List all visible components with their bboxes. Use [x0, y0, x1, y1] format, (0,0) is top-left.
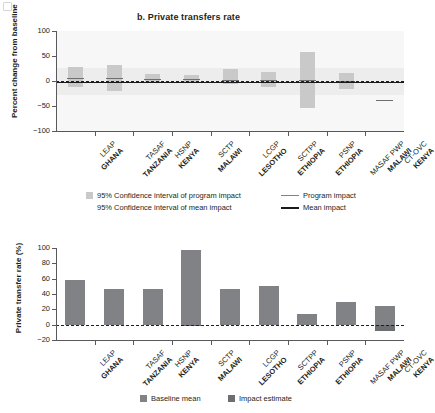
y-tick-top--50: [52, 106, 56, 107]
y-tick-bottom--20: [52, 340, 56, 341]
legend-item-ci-program: 95% Confidence interval of program impac…: [86, 191, 241, 200]
legend-item-ci-mean: 95% Confidence interval of mean impact: [86, 203, 232, 212]
confidence-interval-box-sctpp: [261, 72, 276, 87]
x-tick-bottom-4: [211, 341, 212, 345]
y-axis-line-top: [56, 31, 57, 131]
category-label-sctpp-ethiopia: SCTPPETHIOPIA: [288, 348, 326, 386]
y-tick-bottom-60: [52, 279, 56, 280]
chart-panel-private-transfers-rate: b. Private transfers rate Percent change…: [0, 0, 412, 228]
baseline-mean-bar-ct-ovc: [375, 306, 395, 324]
x-tick-top-5: [249, 132, 250, 136]
baseline-mean-bar-hsnp: [143, 289, 163, 324]
legend-swatch-ci-program-icon: [86, 192, 93, 199]
baseline-mean-bar-masaf-pwp: [336, 302, 356, 325]
category-label-leap-ghana: LEAPGHANA: [92, 348, 125, 381]
x-tick-bottom-3: [172, 341, 173, 345]
y-tick-label-bottom-100: 100: [20, 243, 50, 252]
category-label-sctp-malawi: SCTPMALAWI: [209, 348, 244, 383]
legend-swatch-baseline-mean-icon: [140, 395, 147, 402]
category-label-psnp-ethiopia: PSNPETHIOPIA: [327, 348, 365, 386]
y-tick-label-top--50: −50: [20, 101, 50, 110]
y-tick-label-bottom--20: −20: [20, 335, 50, 344]
y-tick-label-top-100: 100: [20, 26, 50, 35]
baseline-mean-bar-tasaf: [104, 289, 124, 325]
category-label-tasaf-tanzania: TASAFTANZANIA: [134, 348, 174, 388]
baseline-mean-bar-sctp: [181, 250, 201, 325]
zero-reference-line-top: [56, 81, 404, 82]
category-label-hsnp-kenya: HSNPKENYA: [169, 139, 201, 171]
y-tick-label-top-0: 0: [20, 76, 50, 85]
y-tick-bottom-0: [52, 325, 56, 326]
chart-title-top: b. Private transfers rate: [137, 12, 240, 22]
y-tick-label-top-50: 50: [20, 51, 50, 60]
legend-swatch-program-impact-icon: [281, 195, 299, 196]
category-label-leap-ghana: LEAPGHANA: [92, 139, 125, 172]
category-label-lcgp-lesotho: LCGPLESOTHO: [250, 348, 289, 387]
x-tick-top-3: [172, 132, 173, 136]
legend-swatch-ci-mean-icon: [86, 204, 93, 211]
y-tick-bottom-80: [52, 263, 56, 264]
program-impact-line-leap: [67, 78, 84, 79]
x-tick-bottom-8: [365, 341, 366, 345]
category-label-ct-ovc-kenya: CT-OVCKENYA: [402, 348, 435, 381]
legend-item-impact-estimate: Impact estimate: [228, 394, 292, 403]
x-tick-bottom-2: [133, 341, 134, 345]
category-label-sctpp-ethiopia: SCTPPETHIOPIA: [288, 139, 326, 177]
y-tick-top--100: [52, 131, 56, 132]
legend-label-ci-program: 95% Confidence interval of program impac…: [97, 191, 241, 200]
category-label-ct-ovc-kenya: CT-OVCKENYA: [402, 139, 435, 172]
y-tick-top-50: [52, 56, 56, 57]
program-impact-line-hsnp: [144, 79, 161, 80]
category-label-hsnp-kenya: HSNPKENYA: [169, 348, 201, 380]
y-tick-top-0: [52, 81, 56, 82]
x-axis-line-top: [56, 131, 404, 132]
y-axis-line-bottom: [56, 248, 57, 340]
category-label-psnp-ethiopia: PSNPETHIOPIA: [327, 139, 365, 177]
y-tick-bottom-20: [52, 309, 56, 310]
zero-reference-line-bottom: [56, 325, 404, 326]
legend-label-program-impact: Program impact: [303, 191, 356, 200]
y-tick-label-bottom-60: 60: [20, 274, 50, 283]
plot-area-bottom: [56, 248, 404, 340]
legend-label-baseline-mean: Baseline mean: [151, 394, 201, 403]
x-tick-bottom-5: [249, 341, 250, 345]
y-tick-bottom-40: [52, 294, 56, 295]
legend-item-mean-impact: Mean impact: [281, 203, 346, 212]
x-tick-top-6: [288, 132, 289, 136]
x-tick-top-4: [211, 132, 212, 136]
legend-swatch-mean-impact-icon: [281, 207, 299, 209]
legend-item-program-impact: Program impact: [281, 191, 356, 200]
y-tick-label-bottom-0: 0: [20, 320, 50, 329]
y-tick-label-bottom-80: 80: [20, 258, 50, 267]
x-tick-bottom-1: [95, 341, 96, 345]
y-tick-label-bottom-20: 20: [20, 304, 50, 313]
y-tick-label-bottom-40: 40: [20, 289, 50, 298]
legend-swatch-impact-estimate-icon: [228, 395, 235, 402]
x-axis-line-bottom: [56, 340, 404, 341]
x-tick-top-1: [95, 132, 96, 136]
baseline-mean-bar-sctpp: [259, 286, 279, 325]
category-label-lcgp-lesotho: LCGPLESOTHO: [250, 139, 289, 178]
baseline-mean-bar-lcgp: [220, 289, 240, 325]
x-tick-bottom-6: [288, 341, 289, 345]
y-axis-title-top: Percent change from baseline: [10, 28, 20, 118]
legend-label-ci-mean: 95% Confidence interval of mean impact: [97, 203, 232, 212]
program-impact-line-ct-ovc: [376, 100, 393, 101]
y-tick-label-top--100: −100: [20, 126, 50, 135]
y-tick-top-100: [52, 31, 56, 32]
x-tick-bottom-7: [327, 341, 328, 345]
y-tick-bottom-100: [52, 248, 56, 249]
plot-area-top: [56, 31, 404, 131]
x-tick-top-8: [365, 132, 366, 136]
x-tick-top-2: [133, 132, 134, 136]
legend-label-impact-estimate: Impact estimate: [239, 394, 292, 403]
baseline-mean-bar-leap: [65, 280, 85, 324]
legend-label-mean-impact: Mean impact: [303, 203, 346, 212]
x-tick-top-7: [327, 132, 328, 136]
category-label-tasaf-tanzania: TASAFTANZANIA: [134, 139, 174, 179]
category-label-sctp-malawi: SCTPMALAWI: [209, 139, 244, 174]
program-impact-line-tasaf: [106, 78, 123, 79]
baseline-mean-bar-psnp: [297, 314, 317, 325]
chart-panel-private-transfer-rate-levels: Private transfer rate (%) 100806040200−2…: [0, 228, 412, 413]
legend-item-baseline-mean: Baseline mean: [140, 394, 201, 403]
